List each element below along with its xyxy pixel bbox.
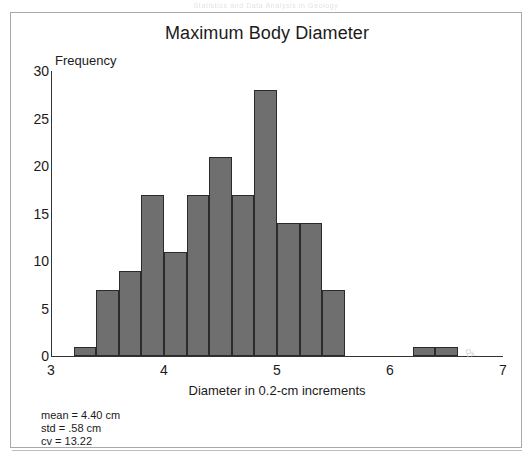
histogram-bar — [277, 223, 300, 356]
histogram-bar — [96, 290, 119, 357]
scanned-page-header: Statistics and Data Analysis in Geology — [0, 0, 532, 11]
histogram-bar — [435, 347, 458, 357]
y-tick-label: 30 — [9, 63, 49, 79]
x-tick-label: 3 — [31, 362, 71, 378]
histogram-bar — [209, 157, 232, 357]
histogram-bar — [74, 347, 97, 357]
x-tick-label: 5 — [257, 362, 297, 378]
y-tick-label: 5 — [9, 301, 49, 317]
stat-cv: cv = 13.22 — [41, 435, 120, 448]
histogram-bar — [164, 252, 187, 357]
histogram-bar — [119, 271, 142, 357]
y-tick-label: 25 — [9, 111, 49, 127]
y-axis-title: Frequency — [55, 53, 116, 68]
x-tick-label: 7 — [483, 362, 523, 378]
plot-area: Frequency 051015202530 34567 Diameter in… — [51, 61, 503, 366]
histogram-bar — [413, 347, 436, 357]
x-tick-label: 4 — [144, 362, 184, 378]
y-tick-label: 15 — [9, 206, 49, 222]
chart-title: Maximum Body Diameter — [11, 23, 523, 44]
y-tick-label: 20 — [9, 158, 49, 174]
histogram-bar — [187, 195, 210, 357]
histogram-bar — [300, 223, 323, 356]
stat-std: std = .58 cm — [41, 422, 120, 435]
x-axis-title: Diameter in 0.2-cm increments — [51, 383, 503, 398]
histogram-bar — [232, 195, 255, 357]
histogram-bar — [141, 195, 164, 357]
histogram-bar — [322, 290, 345, 357]
statistics-block: mean = 4.40 cm std = .58 cm cv = 13.22 — [41, 409, 120, 448]
y-tick-label: 10 — [9, 253, 49, 269]
stat-mean: mean = 4.40 cm — [41, 409, 120, 422]
histogram-bar — [254, 90, 277, 356]
stats-divider — [12, 450, 522, 451]
y-axis-line — [51, 71, 52, 357]
x-axis-line — [51, 356, 503, 357]
figure-frame: Maximum Body Diameter Frequency 05101520… — [10, 12, 522, 448]
x-tick-label: 6 — [370, 362, 410, 378]
